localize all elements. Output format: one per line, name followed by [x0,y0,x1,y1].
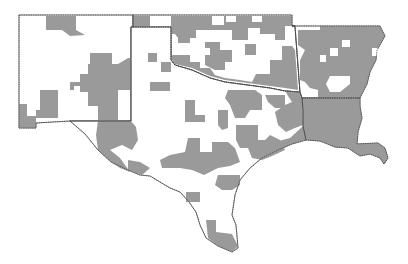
unshaded-region [226,16,236,22]
shaded-region [133,16,150,27]
unshaded-region [372,48,378,56]
shaded-region [302,98,388,164]
shaded-region [186,192,200,202]
unshaded-region [252,16,262,22]
shaded-region [178,35,190,43]
choropleth-map [0,0,408,264]
shaded-region [161,62,171,72]
shaded-region [148,53,157,62]
unshaded-region [342,40,350,47]
shaded-region [150,82,170,91]
unshaded-region [320,55,326,62]
unshaded-region [330,48,338,56]
shaded-region [245,44,256,55]
